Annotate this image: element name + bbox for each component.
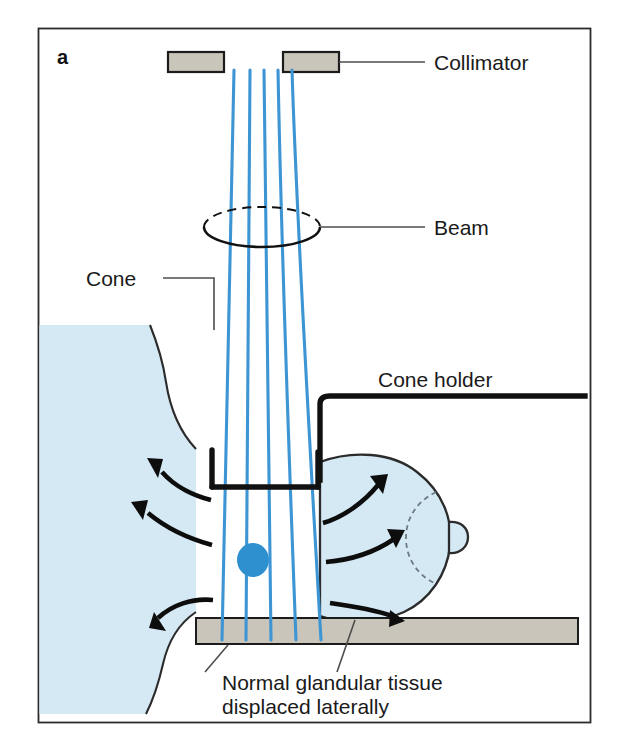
figure-root: a Collimator Beam Cone Cone holder Norma… [0, 0, 621, 754]
tumor-blob [237, 543, 269, 577]
detector-base-plate [196, 618, 578, 644]
label-caption-line2: displaced laterally [222, 695, 389, 718]
label-beam: Beam [434, 216, 489, 239]
label-cone: Cone [86, 267, 136, 290]
panel-label: a [57, 46, 69, 68]
radiotherapy-cone-diagram: a Collimator Beam Cone Cone holder Norma… [0, 0, 621, 754]
label-caption-line1: Normal glandular tissue [222, 671, 443, 694]
label-cone-holder: Cone holder [378, 368, 492, 391]
label-collimator: Collimator [434, 51, 529, 74]
collimator-bar-left [168, 52, 224, 72]
